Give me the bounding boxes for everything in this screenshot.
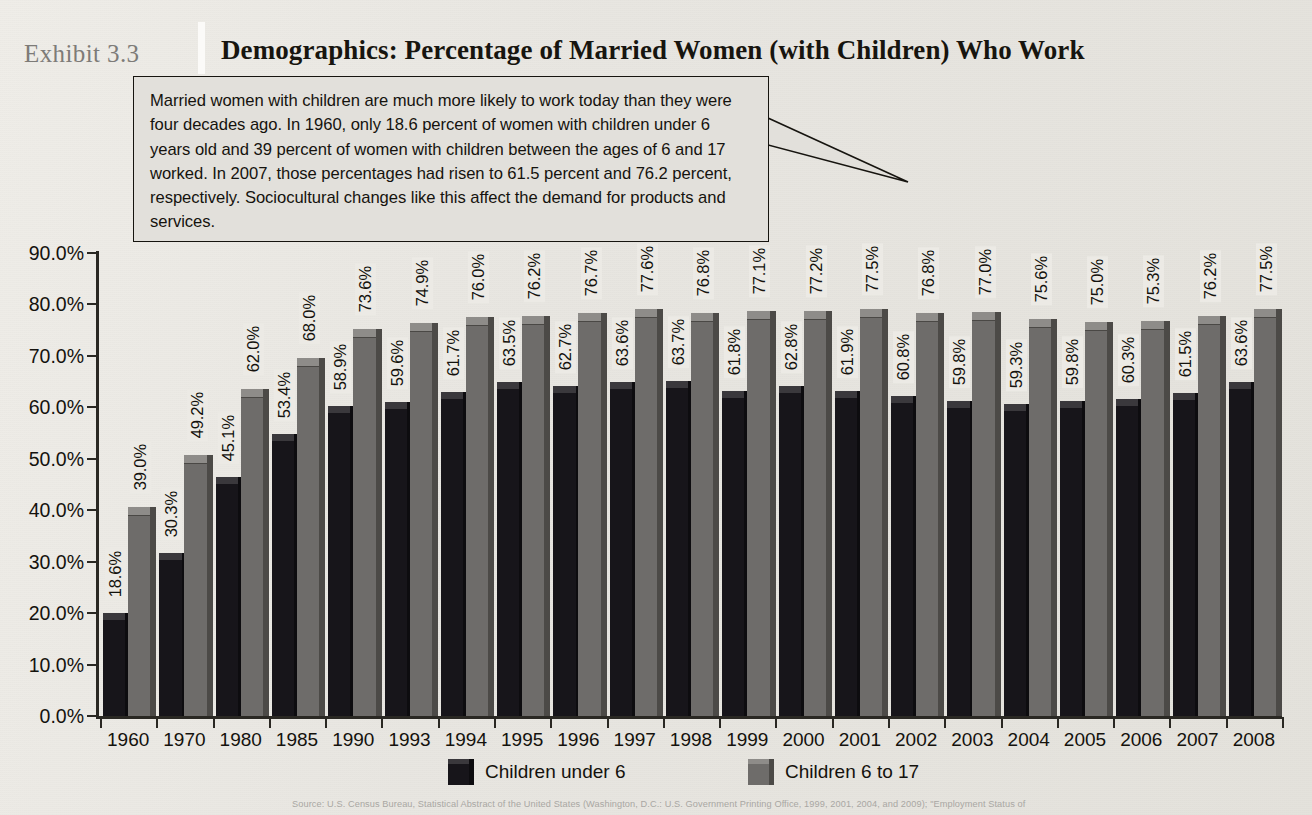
bar-top-face (691, 313, 713, 322)
x-axis-tick-label: 1980 (220, 729, 262, 751)
bar-top-face (1173, 393, 1195, 400)
x-axis-tick-mark (156, 717, 158, 728)
y-axis-tick-label: 50.0% (29, 447, 84, 470)
x-axis-tick-label: 1970 (163, 729, 205, 751)
data-label-children-under-6: 61.5% (1175, 328, 1196, 380)
bar-side-face (488, 317, 494, 716)
data-label-children-under-6: 61.7% (443, 327, 464, 379)
x-axis-tick-label: 1998 (670, 729, 712, 751)
bar-children-6-to-17 (241, 397, 263, 716)
bar-top-face (553, 386, 575, 393)
bar-face (1198, 324, 1220, 716)
x-axis-tick-mark (1113, 717, 1115, 728)
bar-top-face (441, 392, 463, 399)
y-axis-tick-label: 10.0% (29, 653, 84, 676)
y-axis-tick-label: 70.0% (29, 344, 84, 367)
data-label-children-6-to-17: 75.3% (1143, 255, 1164, 307)
bar-face (610, 389, 632, 716)
bar-children-6-to-17 (860, 317, 882, 716)
x-axis-tick-mark (775, 717, 777, 728)
bar-children-under-6 (1173, 400, 1195, 716)
bar-top-face (891, 396, 913, 403)
bar-face (353, 337, 375, 716)
bar-face (578, 321, 600, 716)
x-axis-tick-label: 2002 (895, 729, 937, 751)
data-label-children-6-to-17: 49.2% (187, 389, 208, 441)
x-axis-tick-label: 1995 (501, 729, 543, 751)
bar-face (297, 366, 319, 716)
bar-side-face (207, 455, 213, 716)
x-axis-tick-mark (213, 717, 215, 728)
bar-children-under-6 (1229, 389, 1251, 716)
data-label-children-under-6: 59.8% (949, 336, 970, 388)
x-axis-tick-mark (269, 717, 271, 728)
bar-side-face (376, 329, 382, 716)
data-label-children-6-to-17: 73.6% (355, 263, 376, 315)
bar-children-6-to-17 (466, 325, 488, 716)
bar-top-face (385, 402, 407, 409)
x-axis-tick-mark (381, 717, 383, 728)
data-label-children-under-6: 62.7% (555, 321, 576, 373)
callout-text: Married women with children are much mor… (134, 77, 768, 235)
bar-face (241, 397, 263, 716)
data-label-children-6-to-17: 77.1% (749, 245, 770, 297)
bar-children-under-6 (722, 398, 744, 716)
bar-face (1060, 408, 1082, 716)
x-axis-tick-label: 2000 (782, 729, 824, 751)
bar-top-face (860, 309, 882, 318)
x-axis-tick-mark (1001, 717, 1003, 728)
bar-top-face (128, 507, 150, 516)
y-axis-tick-label: 80.0% (29, 293, 84, 316)
bar-children-under-6 (947, 408, 969, 716)
legend-swatch-children-under-6 (448, 759, 474, 785)
x-axis-tick-mark (663, 717, 665, 728)
bar-top-face (972, 312, 994, 321)
data-label-children-under-6: 58.9% (330, 341, 351, 393)
data-label-children-under-6: 60.3% (1118, 334, 1139, 386)
y-axis-tick-mark (87, 509, 96, 511)
bar-face (497, 389, 519, 716)
bar-top-face (241, 389, 263, 398)
data-label-children-under-6: 63.5% (499, 317, 520, 369)
bar-children-6-to-17 (1029, 327, 1051, 716)
bar-face (1116, 406, 1138, 716)
data-label-children-6-to-17: 77.6% (637, 243, 658, 295)
bar-face (385, 409, 407, 716)
bar-top-face (916, 313, 938, 322)
bar-face (328, 413, 350, 716)
bar-side-face (1164, 321, 1170, 716)
bar-face (804, 319, 826, 716)
x-axis-tick-mark (1169, 717, 1171, 728)
x-axis-tick-mark (607, 717, 609, 728)
bar-side-face (263, 389, 269, 716)
bar-side-face (995, 312, 1001, 716)
bar-children-under-6 (891, 403, 913, 716)
data-label-children-6-to-17: 76.2% (524, 250, 545, 302)
bar-top-face (1254, 309, 1276, 318)
bar-face (1229, 389, 1251, 716)
y-axis-tick-mark (87, 303, 96, 305)
bar-children-under-6 (1116, 406, 1138, 716)
legend-label: Children 6 to 17 (785, 761, 919, 783)
data-label-children-6-to-17: 68.0% (299, 292, 320, 344)
data-label-children-under-6: 63.6% (1231, 317, 1252, 369)
bar-face (272, 441, 294, 716)
bar-children-6-to-17 (1085, 330, 1107, 716)
bar-top-face (1198, 316, 1220, 325)
bar-face (1141, 329, 1163, 716)
x-axis-tick-label: 2006 (1120, 729, 1162, 751)
bar-side-face (432, 323, 438, 716)
x-axis-tick-mark (1057, 717, 1059, 728)
bar-side-face (826, 311, 832, 716)
bar-top-face (497, 382, 519, 389)
y-axis-tick-label: 90.0% (29, 242, 84, 265)
x-axis-tick-mark (1226, 717, 1228, 728)
y-axis-tick-label: 0.0% (40, 705, 84, 728)
bar-top-face (522, 316, 544, 325)
bar-face (691, 321, 713, 716)
bar-face (747, 319, 769, 716)
legend-swatch-children-6-to-17 (748, 759, 774, 785)
x-axis-tick-label: 1996 (557, 729, 599, 751)
data-label-children-6-to-17: 75.0% (1087, 256, 1108, 308)
data-label-children-6-to-17: 76.7% (581, 247, 602, 299)
